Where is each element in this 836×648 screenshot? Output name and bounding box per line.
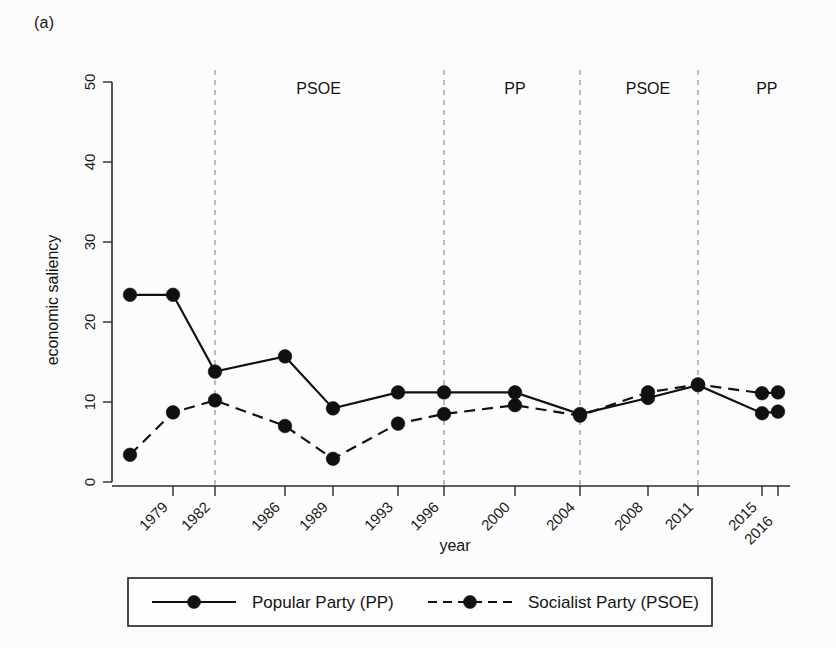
series-line-psoe (130, 384, 778, 458)
x-tick-label-1996: 1996 (407, 498, 443, 534)
data-point-pp-start (123, 288, 137, 302)
data-point-pp-2000 (508, 386, 522, 400)
legend-label-psoe: Socialist Party (PSOE) (528, 593, 699, 612)
data-point-pp-1986 (278, 350, 292, 364)
y-tick-label-50: 50 (81, 74, 98, 91)
data-point-psoe-2000 (508, 398, 522, 412)
data-point-pp-1989 (326, 402, 340, 416)
data-point-psoe-1989 (326, 452, 340, 466)
x-tick-label-2000: 2000 (478, 498, 514, 534)
data-point-psoe-start (123, 448, 137, 462)
x-tick-label-1993: 1993 (361, 498, 397, 534)
series-line-pp (130, 295, 778, 414)
y-tick-label-40: 40 (81, 154, 98, 171)
y-axis-title: economic saliency (44, 235, 61, 366)
data-point-pp-1993 (391, 386, 405, 400)
x-tick-label-1986: 1986 (248, 498, 284, 534)
data-point-psoe-2015 (755, 386, 769, 400)
data-point-pp-1996 (437, 386, 451, 400)
y-tick-label-20: 20 (81, 314, 98, 331)
x-axis-title: year (439, 537, 471, 554)
figure-container: (a) 01020304050 197919821986198919931996… (0, 0, 836, 648)
data-point-pp-2015 (755, 406, 769, 420)
chart-legend: Popular Party (PP) Socialist Party (PSOE… (128, 578, 712, 626)
data-point-psoe-1982 (208, 394, 222, 408)
y-tick-label-10: 10 (81, 394, 98, 411)
legend-marker-pp (188, 596, 201, 609)
data-point-psoe-2016 (771, 386, 785, 400)
data-point-psoe-2004 (573, 409, 587, 423)
line-chart: 01020304050 1979198219861989199319962000… (0, 0, 836, 648)
x-tick-label-2004: 2004 (543, 498, 579, 534)
x-tick-label-2011: 2011 (661, 498, 696, 533)
period-label-2-PSOE: PSOE (626, 80, 670, 97)
data-point-psoe-1993 (391, 417, 405, 431)
x-tick-label-2008: 2008 (611, 498, 647, 534)
data-point-psoe-2008 (641, 386, 655, 400)
x-tick-label-1989: 1989 (296, 498, 332, 534)
period-label-1-PP: PP (504, 80, 525, 97)
data-point-psoe-2011 (691, 378, 705, 392)
period-label-3-PP: PP (756, 80, 777, 97)
data-point-pp-1982 (208, 365, 222, 379)
legend-label-pp: Popular Party (PP) (252, 593, 394, 612)
series-layer (123, 288, 785, 466)
y-tick-label-30: 30 (81, 234, 98, 251)
y-axis: 01020304050 (81, 74, 112, 487)
legend-marker-psoe (464, 596, 477, 609)
data-point-psoe-1979 (166, 406, 180, 420)
data-point-psoe-1986 (278, 419, 292, 433)
y-tick-label-0: 0 (81, 478, 98, 486)
x-tick-label-1982: 1982 (178, 498, 214, 534)
data-point-pp-1979 (166, 288, 180, 302)
period-annotations: PSOEPPPSOEPP (296, 80, 777, 97)
x-tick-label-1979: 1979 (136, 498, 172, 534)
data-point-pp-2016 (771, 405, 785, 419)
period-label-0-PSOE: PSOE (296, 80, 340, 97)
data-point-psoe-1996 (437, 407, 451, 421)
